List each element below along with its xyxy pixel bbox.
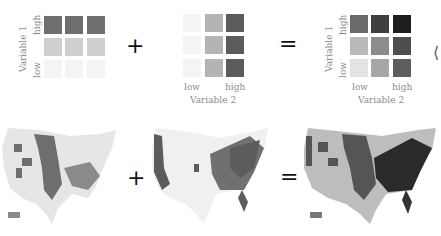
legend-cell	[205, 14, 223, 32]
y-axis-label: Variable 1	[18, 26, 28, 72]
x-low-label: low	[184, 82, 200, 92]
legend-cell	[44, 16, 62, 34]
plus-operator-maps: +	[127, 165, 145, 190]
angle-bracket-icon: ⟨	[433, 43, 439, 62]
legend-cell	[371, 37, 389, 55]
x-axis-label: Variable 2	[358, 95, 404, 105]
legend-cell	[371, 15, 389, 33]
x-high-label: high	[225, 82, 245, 92]
legend-cell	[183, 59, 201, 77]
legend-cell	[65, 38, 83, 56]
legend-cell	[65, 60, 83, 78]
legend-cell	[44, 60, 62, 78]
y-low-label: low	[32, 62, 42, 78]
legend-cell	[226, 36, 244, 54]
x-low-label: low	[352, 82, 368, 92]
legend-cell	[183, 14, 201, 32]
legend-cell	[205, 36, 223, 54]
legend-cell	[65, 16, 83, 34]
legend-cell	[87, 16, 105, 34]
legend-cell	[205, 59, 223, 77]
legend-cell	[350, 59, 368, 77]
equals-operator: =	[279, 31, 297, 56]
x-high-label: high	[392, 82, 412, 92]
legend-cell	[350, 15, 368, 33]
legend-cell	[350, 37, 368, 55]
legend-cell	[226, 14, 244, 32]
y-high-label: high	[338, 15, 348, 35]
legend-cell	[393, 15, 411, 33]
legend-cell	[87, 60, 105, 78]
variable-1-map	[0, 128, 120, 228]
x-axis-label: Variable 2	[190, 95, 236, 105]
y-low-label: low	[338, 62, 348, 78]
legend-cell	[226, 59, 244, 77]
bivariate-map	[302, 128, 441, 228]
legend-cell	[371, 59, 389, 77]
y-axis-label: Variable 1	[324, 26, 334, 72]
legend-cell	[393, 37, 411, 55]
y-high-label: high	[32, 15, 42, 35]
plus-operator: +	[126, 33, 144, 58]
variable-2-map	[150, 128, 275, 228]
legend-cell	[393, 59, 411, 77]
equals-operator-maps: =	[280, 164, 298, 189]
legend-cell	[183, 36, 201, 54]
legend-cell	[44, 38, 62, 56]
legend-cell	[87, 38, 105, 56]
